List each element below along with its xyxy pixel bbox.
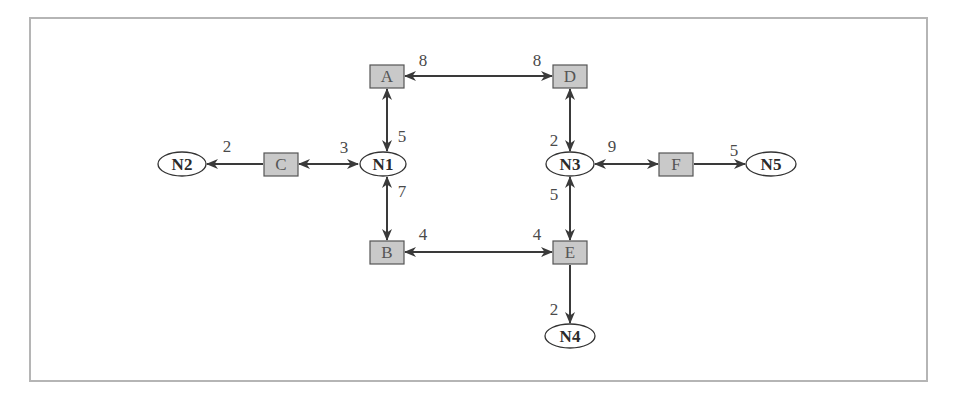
network-label: N2 bbox=[172, 155, 193, 174]
link-weights: 8 8 5 3 2 7 4 4 2 9 5 5 2 bbox=[223, 51, 739, 319]
weight-n3-f: 9 bbox=[608, 137, 617, 156]
weight-c-n1: 3 bbox=[340, 138, 349, 157]
weight-f-n5: 5 bbox=[730, 141, 739, 160]
weight-d-n3: 2 bbox=[550, 131, 559, 150]
network-label: N3 bbox=[560, 155, 581, 174]
router-label: C bbox=[275, 155, 286, 174]
router-label: E bbox=[565, 243, 575, 262]
router-b[interactable]: B bbox=[370, 241, 404, 264]
router-f[interactable]: F bbox=[659, 153, 693, 176]
links bbox=[207, 76, 745, 323]
network-diagram: A B C D E F N1 N2 N3 N4 N5 8 bbox=[0, 0, 956, 406]
network-n1[interactable]: N1 bbox=[360, 152, 406, 176]
weight-n1-b: 7 bbox=[398, 182, 407, 201]
weight-a-n1: 5 bbox=[398, 127, 407, 146]
router-e[interactable]: E bbox=[553, 241, 587, 264]
weight-e-n4: 2 bbox=[550, 300, 559, 319]
router-label: D bbox=[564, 67, 576, 86]
router-label: A bbox=[381, 67, 394, 86]
router-label: F bbox=[671, 155, 680, 174]
network-label: N5 bbox=[761, 155, 782, 174]
router-d[interactable]: D bbox=[553, 65, 587, 88]
diagram-frame bbox=[30, 18, 927, 381]
weight-b-e-near-e: 4 bbox=[533, 225, 542, 244]
weight-a-d-near-a: 8 bbox=[419, 51, 428, 70]
weight-c-n2: 2 bbox=[223, 137, 232, 156]
router-c[interactable]: C bbox=[264, 153, 298, 176]
router-label: B bbox=[381, 243, 392, 262]
router-a[interactable]: A bbox=[370, 65, 404, 88]
weight-b-e-near-b: 4 bbox=[419, 225, 428, 244]
network-n3[interactable]: N3 bbox=[546, 152, 594, 176]
network-label: N1 bbox=[373, 155, 394, 174]
weight-n3-e: 5 bbox=[550, 185, 559, 204]
network-n4[interactable]: N4 bbox=[545, 324, 595, 348]
network-n2[interactable]: N2 bbox=[158, 152, 206, 176]
network-n5[interactable]: N5 bbox=[746, 152, 796, 176]
weight-a-d-near-d: 8 bbox=[533, 51, 542, 70]
network-label: N4 bbox=[560, 327, 581, 346]
